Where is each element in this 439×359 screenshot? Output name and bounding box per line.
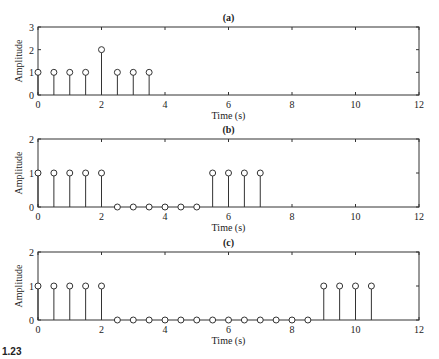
- x-tick-label: 6: [226, 211, 231, 222]
- y-tick-label: 0: [29, 90, 34, 101]
- y-tick-label: 2: [29, 134, 34, 145]
- x-tick-label: 10: [351, 211, 361, 222]
- subplot-title: (c): [223, 237, 234, 249]
- stem-marker: [83, 69, 89, 75]
- stem-marker: [162, 204, 168, 210]
- x-tick-label: 12: [414, 211, 424, 222]
- stem-marker: [146, 204, 152, 210]
- stem-marker: [178, 317, 184, 323]
- stem-marker: [130, 317, 136, 323]
- stem-marker: [210, 317, 216, 323]
- subplot-c: (c)024681012012AmplitudeTime (s): [13, 237, 424, 347]
- stem-marker: [51, 283, 57, 289]
- x-tick-label: 2: [99, 99, 104, 110]
- stem-marker: [114, 69, 120, 75]
- subplot-title: (a): [223, 12, 235, 24]
- x-tick-label: 0: [36, 211, 41, 222]
- stem-marker: [83, 283, 89, 289]
- axes-box: [38, 27, 419, 95]
- stem-marker: [257, 170, 263, 176]
- x-tick-label: 12: [414, 99, 424, 110]
- stem-marker: [130, 69, 136, 75]
- x-tick-label: 10: [351, 99, 361, 110]
- stem-marker: [289, 317, 295, 323]
- x-axis-label: Time (s): [212, 222, 246, 234]
- x-tick-label: 8: [290, 99, 295, 110]
- stem-marker: [114, 204, 120, 210]
- stem-marker: [35, 69, 41, 75]
- x-tick-label: 10: [351, 324, 361, 335]
- stem-marker: [130, 204, 136, 210]
- y-axis-label: Amplitude: [13, 151, 24, 194]
- stem-marker: [273, 317, 279, 323]
- x-tick-label: 6: [226, 99, 231, 110]
- stem-marker: [257, 317, 263, 323]
- stem-marker: [241, 170, 247, 176]
- x-tick-label: 8: [290, 211, 295, 222]
- stem-marker: [226, 317, 232, 323]
- stem-marker: [321, 283, 327, 289]
- y-tick-label: 1: [29, 168, 34, 179]
- stem-marker: [194, 317, 200, 323]
- stem-marker: [241, 317, 247, 323]
- figure-caption-fragment: 1.23: [2, 346, 21, 357]
- stem-marker: [194, 204, 200, 210]
- stem-marker: [305, 317, 311, 323]
- x-axis-label: Time (s): [212, 110, 246, 122]
- y-tick-label: 2: [29, 45, 34, 56]
- x-tick-label: 12: [414, 324, 424, 335]
- x-tick-label: 0: [36, 324, 41, 335]
- x-tick-label: 0: [36, 99, 41, 110]
- stem-marker: [337, 283, 343, 289]
- y-axis-label: Amplitude: [13, 39, 24, 82]
- stem-marker: [83, 170, 89, 176]
- stem-marker: [210, 170, 216, 176]
- stem-marker: [99, 283, 105, 289]
- stem-marker: [99, 47, 105, 53]
- stem-marker: [146, 317, 152, 323]
- x-tick-label: 6: [226, 324, 231, 335]
- y-tick-label: 0: [29, 315, 34, 326]
- stem-marker: [146, 69, 152, 75]
- x-tick-label: 2: [99, 324, 104, 335]
- y-tick-label: 2: [29, 247, 34, 258]
- stem-marker: [67, 170, 73, 176]
- stem-marker: [67, 69, 73, 75]
- y-tick-label: 1: [29, 67, 34, 78]
- axes-box: [38, 252, 419, 320]
- y-tick-label: 0: [29, 202, 34, 213]
- x-tick-label: 4: [163, 211, 168, 222]
- x-axis-label: Time (s): [212, 335, 246, 347]
- stem-marker: [67, 283, 73, 289]
- stem-marker: [51, 69, 57, 75]
- y-tick-label: 1: [29, 281, 34, 292]
- stem-marker: [162, 317, 168, 323]
- stem-marker: [99, 170, 105, 176]
- stem-plot-figure: (a)0246810120123AmplitudeTime (s)(b)0246…: [0, 0, 439, 359]
- x-tick-label: 8: [290, 324, 295, 335]
- x-tick-label: 2: [99, 211, 104, 222]
- y-axis-label: Amplitude: [13, 264, 24, 307]
- x-tick-label: 4: [163, 324, 168, 335]
- stem-marker: [114, 317, 120, 323]
- stem-marker: [226, 170, 232, 176]
- stem-marker: [51, 170, 57, 176]
- subplot-b: (b)024681012012AmplitudeTime (s): [13, 124, 424, 234]
- stem-marker: [353, 283, 359, 289]
- y-tick-label: 3: [29, 22, 34, 33]
- stem-marker: [35, 283, 41, 289]
- stem-marker: [35, 170, 41, 176]
- subplot-a: (a)0246810120123AmplitudeTime (s): [13, 12, 424, 122]
- stem-marker: [368, 283, 374, 289]
- stem-marker: [178, 204, 184, 210]
- subplot-title: (b): [222, 124, 234, 136]
- x-tick-label: 4: [163, 99, 168, 110]
